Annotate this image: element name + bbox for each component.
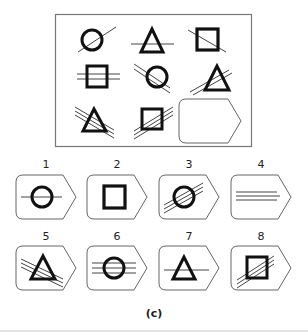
grid-cell-2-triangle [131,29,174,52]
grid-cell-4-square [77,66,120,87]
option-8-label: 8 [251,230,271,243]
option-4[interactable] [231,175,291,219]
option-8[interactable] [231,246,291,290]
figure-caption: (c) [0,307,308,320]
option-5-label: 5 [36,230,56,243]
option-7-label: 7 [179,230,199,243]
grid-cell-7-triangle [75,107,114,138]
grid-cell-8-square [134,107,173,139]
option-2[interactable] [87,175,147,219]
option-3-label: 3 [179,158,199,171]
option-1[interactable] [16,175,76,219]
option-6-label: 6 [107,230,127,243]
option-2-label: 2 [107,158,127,171]
grid-cell-9-empty [179,99,241,143]
option-3[interactable] [159,175,219,219]
grid-cell-1-circle [78,27,116,52]
grid-cell-6-triangle [190,66,232,95]
option-5[interactable] [16,246,76,290]
grid-cell-5-circle [134,64,170,93]
option-7[interactable] [159,246,219,290]
option-6[interactable] [87,246,147,290]
grid-cell-3-square [188,29,226,52]
bottom-divider [0,330,308,332]
option-4-label: 4 [251,158,271,171]
option-1-label: 1 [36,158,56,171]
